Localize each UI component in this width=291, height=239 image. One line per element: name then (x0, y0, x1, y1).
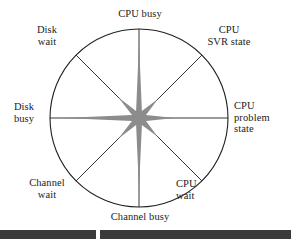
footer-bar-notch (96, 230, 100, 239)
radar-data-polygon (63, 42, 174, 189)
kiviat-figure: CPU busy CPU SVR state CPU problem state… (0, 0, 291, 239)
page-footer-bar (0, 230, 291, 239)
axis-label-cpu-svr-state: CPU SVR state (196, 24, 262, 47)
axis-label-cpu-busy: CPU busy (105, 8, 175, 20)
axis-label-disk-busy: Disk busy (2, 101, 46, 124)
axis-label-disk-wait: Disk wait (22, 24, 72, 47)
axis-label-cpu-problem-state: CPU problem state (234, 100, 290, 135)
axis-label-channel-busy: Channel busy (100, 211, 180, 223)
axis-label-cpu-wait: CPU wait (176, 178, 224, 201)
axis-label-channel-wait: Channel wait (14, 177, 80, 200)
